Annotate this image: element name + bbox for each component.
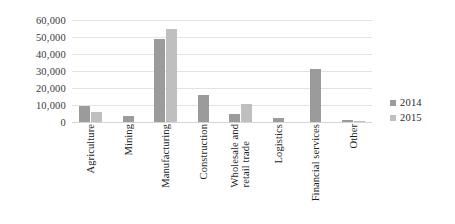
bar-2014 [154,39,165,122]
bar-group [335,20,373,122]
x-axis-label: Other [303,124,403,148]
x-axis-category-labels: AgricultureMiningManufacturingConstructi… [72,124,372,224]
plot-area [72,20,372,122]
legend-label: 2014 [400,97,422,108]
y-axis-tick-label: 50,000 [36,32,66,43]
bar-group [297,20,335,122]
bar-2015 [354,121,365,122]
y-axis-tick-label: 10,000 [36,100,66,111]
bar-group [110,20,148,122]
bar-2015 [166,29,177,122]
bar-2014 [342,120,353,122]
chart-legend: 20142015 [390,95,422,125]
y-axis-tick-label: 40,000 [36,49,66,60]
y-axis: 60,00050,00040,00030,00020,00010,0000 [0,20,66,122]
bar-chart: 60,00050,00040,00030,00020,00010,0000 Ag… [0,0,455,224]
bar-group [222,20,260,122]
bar-2015 [91,112,102,122]
y-axis-tick-label: 60,000 [36,15,66,26]
axis-baseline [72,122,372,123]
bar-2014 [79,106,90,122]
bar-group [72,20,110,122]
legend-swatch-icon [390,100,396,106]
y-axis-tick-label: 30,000 [36,66,66,77]
bar-2014 [273,118,284,122]
y-axis-tick-label: 20,000 [36,83,66,94]
bar-group [185,20,223,122]
bar-group [260,20,298,122]
legend-label: 2015 [400,112,422,123]
bar-2014 [229,114,240,123]
bar-2015 [241,104,252,122]
legend-item[interactable]: 2014 [390,95,422,110]
x-axis-label-text: Other [348,124,359,148]
legend-item[interactable]: 2015 [390,110,422,125]
legend-swatch-icon [390,115,396,121]
bar-2014 [198,95,209,122]
bar-2014 [123,116,134,122]
bar-2014 [310,69,321,122]
bar-group [147,20,185,122]
